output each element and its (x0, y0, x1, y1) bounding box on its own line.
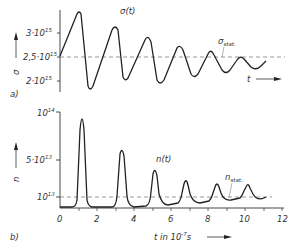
xtick-10: 10 (239, 214, 250, 224)
sigma-curve (60, 12, 266, 89)
xtick-4: 4 (131, 214, 136, 224)
t-axis-label: t (247, 74, 251, 84)
figure: 3·1015 2,5·1015 2·1015 σ a) σ(t) σstat. … (0, 0, 296, 248)
xtick-0: 0 (57, 214, 62, 224)
n-axis-label: n (11, 177, 21, 182)
ytick-3e15: 3·1015 (26, 27, 52, 38)
panel-b-label: b) (10, 232, 19, 242)
sigma-stat-label: σstat. (218, 36, 236, 47)
sigma-curve-label: σ(t) (120, 6, 135, 16)
xtick-6: 6 (168, 214, 174, 224)
xtick-2: 2 (94, 214, 99, 224)
n-curve-label: n(t) (156, 154, 171, 164)
ytick-1e13: 1013 (37, 191, 55, 202)
xtick-12: 12 (277, 214, 288, 224)
sigma-axis-label: σ (11, 69, 21, 75)
panel-b: 1014 5·1013 1013 n b) 0 2 4 6 8 10 12 t … (10, 107, 288, 242)
ytick-1e14: 1014 (37, 107, 55, 118)
x-axis-title: t in 10-7s (154, 231, 192, 242)
t-arrow-icon (274, 77, 282, 81)
ytick-2.5e15: 2,5·1015 (23, 51, 58, 62)
ytick-2e15: 2·1015 (26, 75, 52, 86)
x-arrow-icon (224, 235, 232, 239)
panel-a: 3·1015 2,5·1015 2·1015 σ a) σ(t) σstat. … (10, 6, 285, 99)
n-stat-label: nstat. (225, 172, 243, 183)
xtick-8: 8 (205, 214, 211, 224)
ytick-5e13: 5·1013 (26, 154, 52, 165)
panel-a-label: a) (10, 89, 19, 99)
